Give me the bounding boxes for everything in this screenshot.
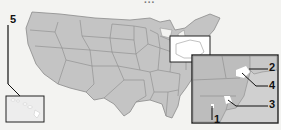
hawaii-leader-diag bbox=[8, 84, 20, 96]
partial-top-text: ... bbox=[144, 0, 155, 5]
callout-label-3: 3 bbox=[269, 99, 275, 110]
callout-label-2: 2 bbox=[269, 62, 275, 73]
callout-label-5: 5 bbox=[10, 14, 16, 25]
callout-label-4: 4 bbox=[269, 80, 275, 91]
callout-label-1: 1 bbox=[214, 114, 220, 125]
contiguous-us-landmass bbox=[26, 12, 220, 118]
us-map bbox=[0, 0, 281, 130]
